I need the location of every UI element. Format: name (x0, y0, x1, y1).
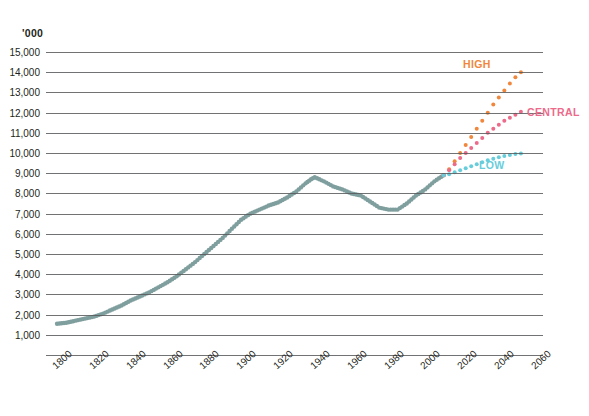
gridline (46, 113, 543, 114)
gridline (46, 193, 543, 194)
y-tick-label: 8,000 (0, 188, 40, 199)
series-label-low: LOW (479, 159, 505, 171)
y-tick-label: 12,000 (0, 107, 40, 118)
gridline (46, 254, 543, 255)
y-tick-label: 9,000 (0, 168, 40, 179)
y-tick-label: 2,000 (0, 309, 40, 320)
y-tick-label: 1,000 (0, 329, 40, 340)
y-tick-label: 6,000 (0, 228, 40, 239)
y-tick-label: 7,000 (0, 208, 40, 219)
y-tick-label: 4,000 (0, 269, 40, 280)
series-label-high: HIGH (463, 58, 491, 70)
population-chart: '000 1,0002,0003,0004,0005,0006,0007,000… (0, 0, 589, 416)
y-tick-label: 3,000 (0, 289, 40, 300)
y-tick-label: 13,000 (0, 87, 40, 98)
y-tick-label: 5,000 (0, 249, 40, 260)
gridline (46, 133, 543, 134)
gridline (46, 315, 543, 316)
gridline (46, 52, 543, 53)
units-label: '000 (22, 27, 43, 39)
y-tick-label: 10,000 (0, 148, 40, 159)
gridline (46, 173, 543, 174)
gridline (46, 214, 543, 215)
plot-area (46, 42, 543, 355)
gridline (46, 294, 543, 295)
series-label-central: CENTRAL (527, 106, 580, 118)
y-tick-label: 14,000 (0, 67, 40, 78)
gridline (46, 92, 543, 93)
gridline (46, 153, 543, 154)
series-historic (55, 173, 446, 326)
series-layer (46, 42, 543, 355)
gridline (46, 234, 543, 235)
y-tick-label: 11,000 (0, 127, 40, 138)
gridline (46, 335, 543, 336)
y-tick-label: 15,000 (0, 47, 40, 58)
gridline (46, 274, 543, 275)
gridline (46, 72, 543, 73)
